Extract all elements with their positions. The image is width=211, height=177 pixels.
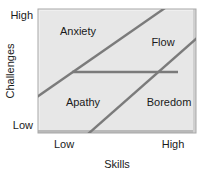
y-axis-title: Challenges [4, 43, 16, 99]
region-label-boredom: Boredom [147, 96, 192, 108]
region-label-apathy: Apathy [66, 96, 101, 108]
y-axis-tick-high: High [10, 9, 33, 21]
x-axis-tick-low: Low [54, 138, 74, 150]
y-axis-tick-low: Low [13, 119, 33, 131]
diagram-canvas: Anxiety Flow Apathy Boredom High Low Cha… [0, 0, 211, 177]
region-label-flow: Flow [151, 36, 174, 48]
x-axis-tick-high: High [162, 138, 185, 150]
region-label-anxiety: Anxiety [60, 25, 97, 37]
flow-state-diagram: Anxiety Flow Apathy Boredom High Low Cha… [0, 0, 211, 177]
x-axis-title: Skills [104, 158, 130, 170]
